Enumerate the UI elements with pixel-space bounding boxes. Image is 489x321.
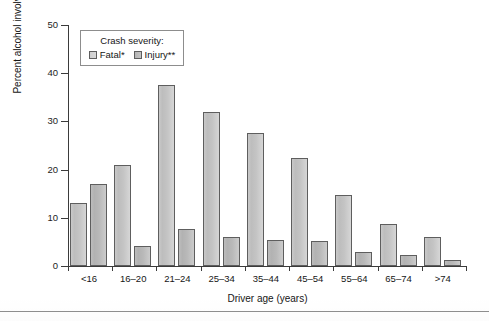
bar-fatal	[158, 85, 175, 266]
bar-injury	[90, 184, 107, 266]
x-axis-tick	[422, 266, 423, 271]
bar-fatal	[335, 195, 352, 266]
y-axis-tick	[61, 170, 68, 171]
y-axis-tick	[61, 266, 68, 267]
legend-item-fatal: Fatal*	[89, 49, 125, 60]
figure-bar-chart-alcohol-involvement: 01020304050 Percent alcohol involvement …	[0, 0, 489, 321]
x-axis-tick	[112, 266, 113, 271]
bar-injury	[444, 260, 461, 266]
x-axis-tick	[333, 266, 334, 271]
y-axis-tick-label: 0	[18, 260, 58, 271]
legend-title: Crash severity:	[87, 35, 177, 46]
y-axis-tick	[61, 25, 68, 26]
legend-item-injury: Injury**	[134, 49, 176, 60]
y-axis-tick-label: 40	[18, 67, 58, 78]
x-axis-tick	[289, 266, 290, 271]
bar-group	[201, 25, 245, 266]
bar-group	[245, 25, 289, 266]
legend-items: Fatal* Injury**	[87, 49, 177, 60]
x-axis-tick	[68, 266, 69, 271]
y-axis-tick	[61, 218, 68, 219]
bar-injury	[178, 229, 195, 266]
bar-group	[422, 25, 466, 266]
bar-injury	[223, 237, 240, 266]
bar-group	[333, 25, 377, 266]
x-axis-tick	[201, 266, 202, 271]
x-axis-tick	[245, 266, 246, 271]
legend: Crash severity: Fatal* Injury**	[80, 30, 184, 66]
bar-fatal	[424, 237, 441, 266]
bar-injury	[355, 252, 372, 266]
bar-injury	[134, 246, 151, 266]
y-axis-tick	[61, 73, 68, 74]
x-axis-title: Driver age (years)	[68, 293, 467, 304]
legend-swatch-injury-icon	[134, 51, 142, 59]
y-axis-tick-label: 30	[18, 115, 58, 126]
y-axis-tick-label: 50	[18, 19, 58, 30]
bar-injury	[400, 255, 417, 266]
x-axis-tick	[378, 266, 379, 271]
x-axis-tick	[156, 266, 157, 271]
bar-fatal	[70, 203, 87, 266]
y-axis-tick-label: 10	[18, 212, 58, 223]
x-axis-line	[68, 266, 467, 267]
bar-injury	[267, 240, 284, 266]
y-axis-tick-label: 20	[18, 164, 58, 175]
bar-fatal	[291, 158, 308, 266]
bar-fatal	[380, 224, 397, 266]
bar-fatal	[247, 133, 264, 266]
legend-swatch-fatal-icon	[89, 51, 97, 59]
legend-label-injury: Injury**	[145, 49, 176, 60]
legend-label-fatal: Fatal*	[100, 49, 125, 60]
bar-group	[378, 25, 422, 266]
bar-fatal	[203, 112, 220, 266]
bar-fatal	[114, 165, 131, 266]
bar-group	[289, 25, 333, 266]
x-axis-tick	[466, 266, 467, 271]
x-axis-tick-label: >74	[413, 273, 473, 284]
footer-divider	[0, 311, 489, 312]
bar-injury	[311, 241, 328, 266]
y-axis-title: Percent alcohol involvement	[12, 0, 23, 146]
y-axis-tick	[61, 121, 68, 122]
